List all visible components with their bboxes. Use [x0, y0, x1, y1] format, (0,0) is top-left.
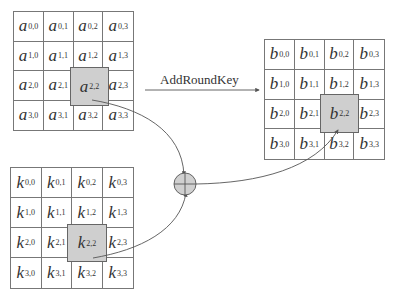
k-to-xor-curve	[93, 193, 186, 258]
a-to-xor-curve	[92, 100, 184, 175]
connectors	[0, 0, 395, 303]
addroundkey-diagram: a0,0a0,1a0,2a0,3a1,0a1,1a1,2a1,3a2,0a2,1…	[0, 0, 395, 303]
xor-to-b-curve	[196, 130, 338, 184]
xor-icon	[174, 173, 196, 195]
